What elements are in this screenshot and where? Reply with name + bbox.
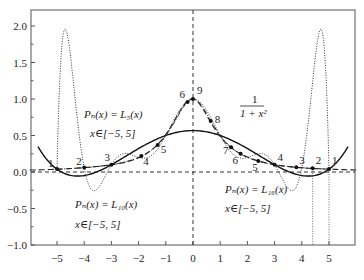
node-label: 1 xyxy=(332,154,338,166)
node-point xyxy=(229,145,233,149)
l5-domain: x∈[−5, 5] xyxy=(89,127,136,139)
x-tick-label: −3 xyxy=(106,252,118,264)
node-point xyxy=(156,143,160,147)
node-point xyxy=(209,119,213,123)
y-tick-label: 0.0 xyxy=(13,166,27,178)
node-label: 3 xyxy=(104,151,110,163)
x-tick-label: −5 xyxy=(51,252,63,264)
x-tick-label: 0 xyxy=(190,252,196,264)
node-point xyxy=(186,100,190,104)
node-label: 2 xyxy=(76,155,82,167)
node-point xyxy=(311,166,315,170)
l16-formula: Pₙ(x) = L₁₆(x) xyxy=(224,183,288,196)
l5-formula: Pₙ(x) = L₅(x) xyxy=(83,108,143,121)
node-label: 3 xyxy=(299,154,305,166)
node-label: 2 xyxy=(316,154,322,166)
y-tick-label: 1.5 xyxy=(13,57,27,69)
runge-denominator: 1 + x² xyxy=(240,107,267,119)
node-point xyxy=(294,165,298,169)
l16-domain: x∈[−5, 5] xyxy=(224,202,271,214)
x-tick-label: −4 xyxy=(78,252,90,264)
x-tick-label: 3 xyxy=(272,252,278,264)
node-point xyxy=(239,152,243,156)
y-tick-label: 2.0 xyxy=(13,20,27,32)
node-point xyxy=(109,163,113,167)
y-tick-label: 1.0 xyxy=(13,93,27,105)
node-label: 6 xyxy=(233,154,239,166)
x-tick-label: 1 xyxy=(217,252,223,264)
l10-formula: Pₙ(x) = L₁₀(x) xyxy=(74,198,138,211)
x-tick-label: 2 xyxy=(245,252,251,264)
node-point xyxy=(191,97,195,101)
node-label: 9 xyxy=(197,84,203,96)
l5-annotation: Pₙ(x) = L₅(x) x∈[−5, 5] xyxy=(83,108,143,139)
node-point xyxy=(273,163,277,167)
y-tick-label: 0.5 xyxy=(13,130,27,142)
x-tick-label: 5 xyxy=(326,252,332,264)
y-tick-label: −0.5 xyxy=(7,203,27,215)
node-label: 4 xyxy=(143,155,149,167)
x-tick-label: −1 xyxy=(160,252,172,264)
x-tick-label: 4 xyxy=(299,252,305,264)
x-axis: −5−4−3−2−1012345 xyxy=(51,241,332,264)
node-point xyxy=(55,167,59,171)
node-label: 8 xyxy=(215,113,221,125)
node-label: 1 xyxy=(48,157,54,169)
y-tick-label: −1.0 xyxy=(7,239,27,251)
node-label: 5 xyxy=(252,161,258,173)
node-label: 7 xyxy=(223,144,229,156)
runge-numerator: 1 xyxy=(252,93,258,105)
x-tick-label: −2 xyxy=(133,252,145,264)
node-label: 4 xyxy=(278,151,284,163)
l16-annotation: Pₙ(x) = L₁₆(x) x∈[−5, 5] xyxy=(224,183,288,214)
l10-annotation: Pₙ(x) = L₁₀(x) x∈[−5, 5] xyxy=(74,198,138,230)
node-label: 6 xyxy=(180,88,186,100)
interpolation-chart: 2.01.51.00.50.0−0.5−1.0 −5−4−3−2−1012345… xyxy=(0,0,364,280)
node-point xyxy=(327,167,331,171)
node-point xyxy=(82,166,86,170)
runge-function-label: 1 1 + x² xyxy=(240,93,267,119)
l10-domain: x∈[−5, 5] xyxy=(74,218,121,230)
node-label: 5 xyxy=(161,143,167,155)
